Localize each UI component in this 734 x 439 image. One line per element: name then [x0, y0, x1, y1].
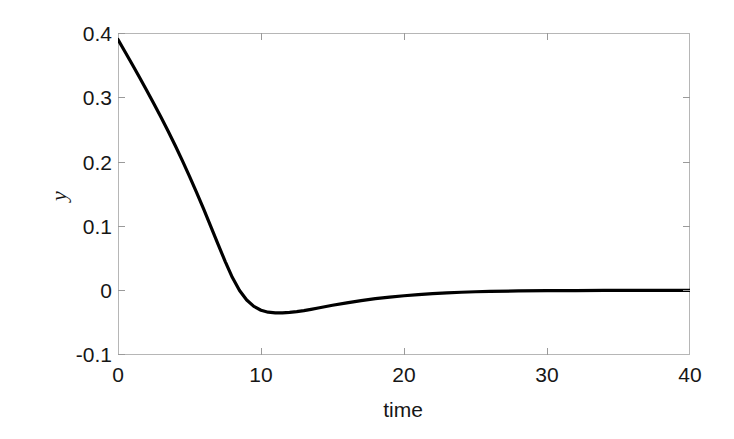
ytick-mark-0.1	[118, 226, 125, 227]
ytick-mark-0.4	[118, 33, 125, 34]
ytick-mark-right-0.3	[683, 97, 690, 98]
xtick-mark-30	[547, 348, 548, 355]
ytick-mark-right-0	[683, 290, 690, 291]
ytick-mark-0	[118, 290, 125, 291]
ytick-label-1: 0.3	[0, 87, 112, 108]
ytick-label-4: 0	[0, 280, 112, 301]
figure-canvas: 0.4 0.3 0.2 0.1 0 -0.1 0 10 20 30 40 tim…	[0, 0, 734, 439]
ytick-label-0: 0.4	[0, 23, 112, 44]
ytick-mark-0.3	[118, 97, 125, 98]
xtick-label-4: 40	[645, 364, 734, 385]
ytick-mark--0.1	[118, 354, 125, 355]
xtick-label-2: 20	[359, 364, 449, 385]
xtick-mark-top-30	[547, 33, 548, 40]
xtick-mark-top-20	[404, 33, 405, 40]
xtick-label-1: 10	[216, 364, 306, 385]
xtick-mark-20	[404, 348, 405, 355]
data-curve-layer	[118, 33, 690, 355]
xtick-mark-top-10	[261, 33, 262, 40]
xtick-label-3: 30	[502, 364, 592, 385]
x-axis-title: time	[0, 398, 734, 422]
ytick-label-5: -0.1	[0, 344, 112, 365]
x-axis-title-text: time	[383, 398, 423, 421]
xtick-label-0: 0	[73, 364, 163, 385]
ytick-label-2: 0.2	[0, 152, 112, 173]
ytick-mark-0.2	[118, 162, 125, 163]
ytick-label-3: 0.1	[0, 216, 112, 237]
xtick-mark-10	[261, 348, 262, 355]
line-series-y	[118, 39, 690, 312]
y-axis-title: y	[46, 181, 72, 211]
ytick-mark-right-0.2	[683, 162, 690, 163]
ytick-mark-right-0.1	[683, 226, 690, 227]
